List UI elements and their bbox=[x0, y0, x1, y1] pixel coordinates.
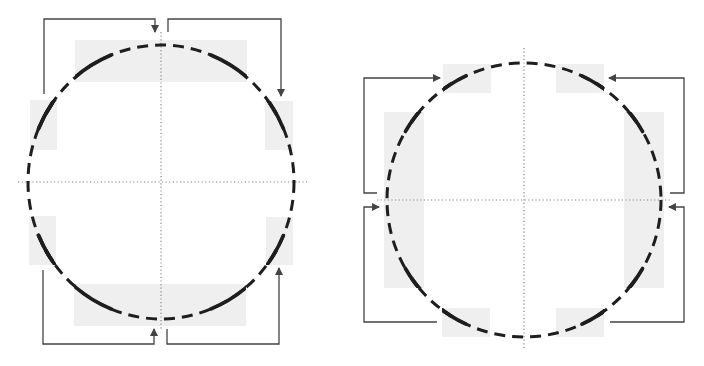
diagram-canvas bbox=[0, 0, 704, 366]
shaded-region-right-left-side bbox=[384, 112, 424, 288]
shaded-regions bbox=[29, 40, 664, 337]
shaded-region-left-right-upper bbox=[265, 101, 293, 150]
quadrant-circle-diagram bbox=[0, 0, 704, 366]
shaded-region-right-bottom-right bbox=[556, 308, 604, 337]
shaded-region-left-left-upper bbox=[30, 100, 57, 150]
